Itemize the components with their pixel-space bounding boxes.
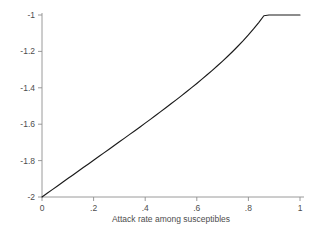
x-tick-label: .8 — [245, 203, 252, 213]
x-tick-label: .6 — [193, 203, 200, 213]
y-tick-label: -1.4 — [20, 83, 35, 93]
x-axis-title: Attack rate among susceptibles — [112, 214, 230, 224]
x-axis-ticks: 0.2.4.6.81 — [40, 197, 303, 213]
y-tick-label: -2 — [27, 192, 35, 202]
y-tick-label: -1.2 — [20, 46, 35, 56]
series-line — [42, 15, 300, 197]
y-axis-ticks: -2-1.8-1.6-1.4-1.2-1 — [20, 10, 42, 202]
y-tick-label: -1.8 — [20, 156, 35, 166]
x-tick-label: 1 — [298, 203, 303, 213]
y-tick-label: -1 — [27, 10, 35, 20]
x-tick-label: .2 — [90, 203, 97, 213]
line-chart: -2-1.8-1.6-1.4-1.2-1 0.2.4.6.81 Attack r… — [0, 0, 317, 232]
y-tick-label: -1.6 — [20, 119, 35, 129]
chart-container: -2-1.8-1.6-1.4-1.2-1 0.2.4.6.81 Attack r… — [0, 0, 317, 232]
data-series-group — [42, 15, 300, 197]
x-tick-label: 0 — [40, 203, 45, 213]
x-tick-label: .4 — [142, 203, 149, 213]
